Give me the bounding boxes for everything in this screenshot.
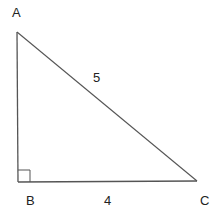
vertex-label-c: C — [200, 193, 209, 208]
side-ac-hypotenuse — [17, 32, 197, 181]
triangle-diagram: A B C 5 4 — [0, 0, 220, 217]
side-bc — [18, 181, 197, 182]
vertex-label-a: A — [12, 5, 21, 20]
triangle-svg: A B C 5 4 — [0, 0, 220, 217]
side-ab — [17, 32, 18, 182]
right-angle-marker — [18, 170, 30, 182]
hypotenuse-length-label: 5 — [93, 70, 100, 85]
base-length-label: 4 — [104, 193, 111, 208]
vertex-label-b: B — [26, 193, 35, 208]
